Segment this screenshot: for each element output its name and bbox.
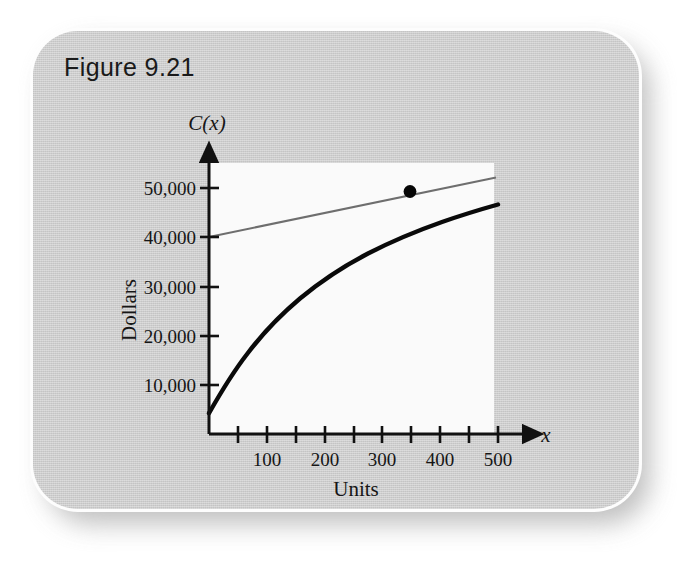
y-tick-label-20000: 20,000: [144, 326, 196, 347]
x-tick-label-400: 400: [426, 449, 455, 470]
y-tick-label-30000: 30,000: [144, 277, 196, 298]
y-tick-label-40000: 40,000: [144, 227, 196, 248]
chart-svg: 10,000 20,000 30,000 40,000 50,000 100 2…: [0, 0, 677, 563]
x-axis-label: Units: [333, 477, 379, 501]
figure-page: Figure 9.21 10,000 20,000 30,: [0, 0, 677, 563]
y-tick-label-50000: 50,000: [144, 178, 196, 199]
x-tick-label-100: 100: [253, 449, 282, 470]
y-axis: [200, 160, 219, 434]
y-axis-label: Dollars: [117, 279, 141, 341]
y-tick-label-10000: 10,000: [144, 375, 196, 396]
tangent-line: [209, 178, 496, 238]
x-tick-label-500: 500: [484, 449, 513, 470]
cost-curve: [209, 205, 498, 414]
x-tick-label-300: 300: [368, 449, 397, 470]
x-tick-label-200: 200: [311, 449, 340, 470]
x-axis-title: x: [540, 423, 551, 447]
y-axis-title: C(x): [188, 111, 225, 135]
x-axis: [209, 426, 525, 443]
tangent-point-marker: [404, 185, 417, 198]
